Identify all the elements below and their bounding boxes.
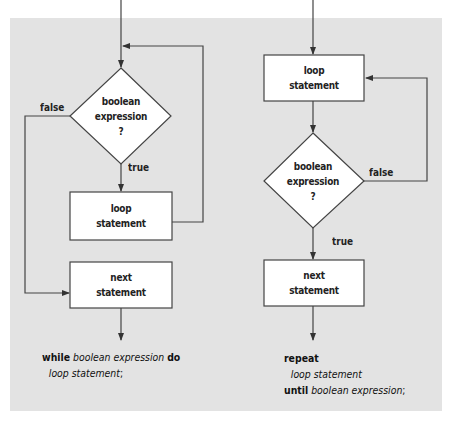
condition-text-line1: boolean: [279, 159, 347, 174]
while-code-body: loop statement: [49, 367, 120, 380]
while-code-condition: boolean expression: [73, 351, 164, 364]
next-text-line2: statement: [78, 285, 165, 300]
repeat-code-line3: until boolean expression;: [284, 383, 405, 399]
repeat-next-label: next statement: [272, 268, 357, 298]
while-pseudocode: while boolean expression do loop stateme…: [42, 350, 180, 382]
condition-text-line3: ?: [87, 124, 155, 139]
while-condition-label: boolean expression ?: [87, 94, 155, 139]
repeat-code-line2: loop statement: [284, 367, 405, 383]
keyword-while: while: [42, 351, 70, 364]
while-false-label: false: [40, 101, 64, 113]
while-next-label: next statement: [78, 270, 165, 300]
condition-text-line1: boolean: [87, 94, 155, 109]
repeat-code-condition: boolean expression: [311, 384, 402, 397]
while-body-label: loop statement: [78, 201, 165, 231]
keyword-until: until: [284, 384, 308, 397]
next-text-line1: next: [78, 270, 165, 285]
while-code-line2: loop statement;: [42, 366, 180, 382]
condition-text-line2: expression: [279, 174, 347, 189]
next-text-line1: next: [272, 268, 357, 283]
while-code-line1: while boolean expression do: [42, 350, 180, 366]
semicolon: ;: [120, 367, 123, 380]
while-true-label: true: [128, 161, 149, 173]
repeat-false-label: false: [369, 166, 393, 178]
body-text-line1: loop: [78, 201, 165, 216]
repeat-code-line1: repeat: [284, 351, 405, 367]
body-text-line2: statement: [272, 78, 357, 93]
while-false-arrow: [25, 116, 70, 293]
repeat-code-body: loop statement: [291, 368, 362, 381]
keyword-do: do: [167, 351, 180, 364]
next-text-line2: statement: [272, 283, 357, 298]
repeat-pseudocode: repeat loop statement until boolean expr…: [284, 351, 405, 399]
condition-text-line3: ?: [279, 189, 347, 204]
body-text-line1: loop: [272, 63, 357, 78]
repeat-true-label: true: [332, 235, 353, 247]
condition-text-line2: expression: [87, 109, 155, 124]
repeat-body-label: loop statement: [272, 63, 357, 93]
semicolon: ;: [402, 384, 405, 397]
body-text-line2: statement: [78, 216, 165, 231]
repeat-condition-label: boolean expression ?: [279, 159, 347, 204]
keyword-repeat: repeat: [284, 352, 319, 365]
